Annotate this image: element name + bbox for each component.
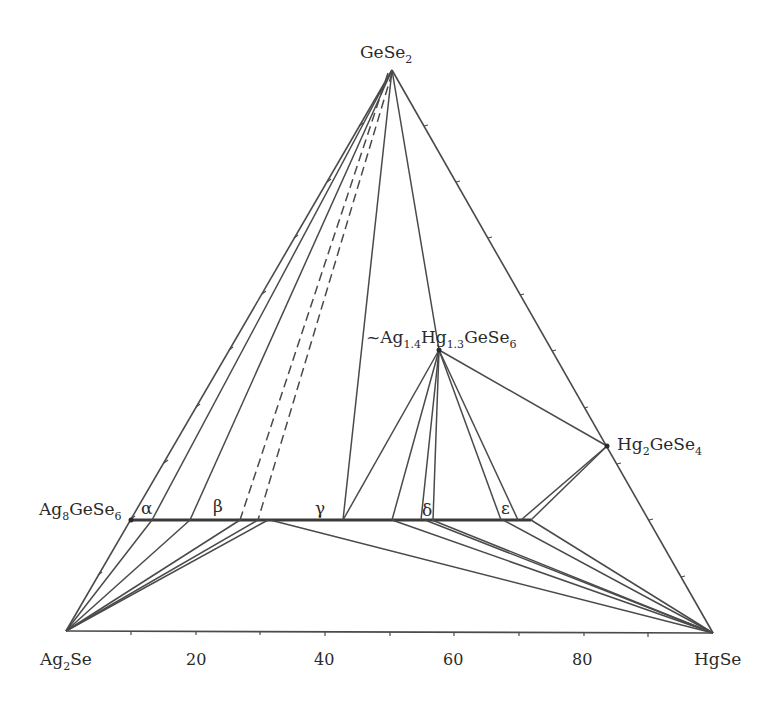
- compound-label-ag8gese6: Ag8GeSe6: [38, 499, 122, 523]
- phase-label-beta: β: [213, 496, 223, 516]
- compound-label-quaternary: ~Ag1.4Hg1.3GeSe6: [366, 327, 516, 351]
- hg2gese4-point: [605, 444, 610, 449]
- ag8gese6-point: [129, 518, 134, 523]
- tie-lines-from-hg2gese4: [521, 446, 607, 520]
- compound-label-hg2gese4: Hg2GeSe4: [617, 434, 702, 458]
- quaternary-point: [437, 348, 442, 353]
- tick-label-60: 60: [443, 650, 463, 669]
- axis-tick-labels: 20 40 60 80: [186, 650, 592, 669]
- left-edge: [66, 70, 392, 631]
- vertex-label-ag2se: Ag2Se: [39, 649, 92, 673]
- phase-label-delta: δ: [422, 500, 432, 520]
- vertex-label-gese2: GeSe2: [360, 42, 412, 66]
- vertex-label-hgse: HgSe: [694, 649, 741, 669]
- triangle-edges: [66, 70, 713, 633]
- tie-lines-from-ag2se: [66, 520, 268, 631]
- ternary-phase-diagram: GeSe2 Ag2Se HgSe Ag8GeSe6 ~Ag1.4Hg1.3GeS…: [0, 0, 776, 703]
- phase-label-epsilon: ε: [501, 498, 510, 518]
- tick-label-80: 80: [572, 650, 592, 669]
- tie-lines-from-hgse: [270, 520, 713, 633]
- tick-label-20: 20: [186, 650, 206, 669]
- axis-ticks: [98, 123, 685, 637]
- phase-label-gamma: γ: [315, 498, 325, 518]
- tick-label-40: 40: [314, 650, 334, 669]
- tie-lines-from-quaternary: [343, 350, 607, 520]
- phase-labels: α β γ δ ε: [141, 496, 510, 520]
- tie-lines-from-gese2: [152, 70, 439, 520]
- phase-label-alpha: α: [141, 498, 153, 518]
